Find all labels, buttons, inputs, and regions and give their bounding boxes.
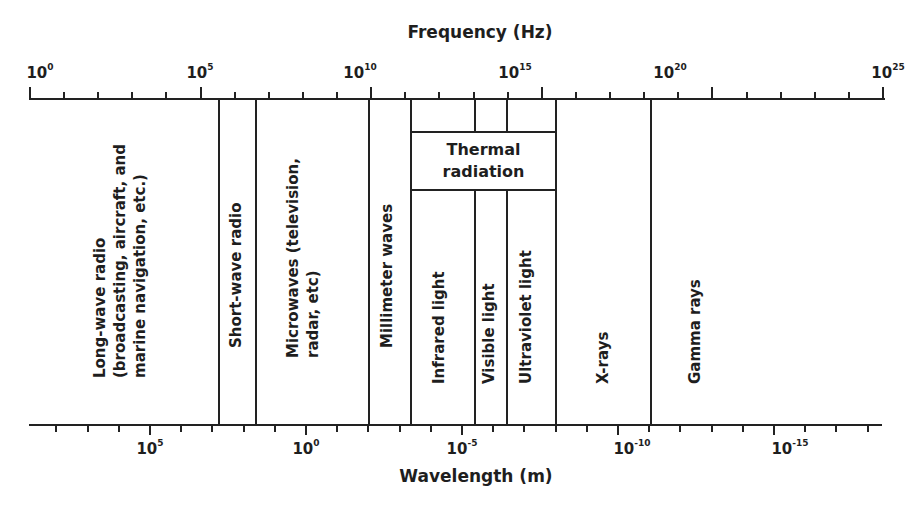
band-divider (218, 98, 220, 426)
minor-tick (438, 92, 440, 99)
minor-tick (648, 425, 650, 432)
band-infrared-light: Infrared light (429, 271, 449, 384)
band-x-rays: X-rays (593, 332, 613, 384)
minor-tick (746, 92, 748, 99)
minor-tick (586, 425, 588, 432)
freq-tick-label: 1010 (343, 64, 376, 82)
major-tick (200, 87, 202, 99)
minor-tick (555, 425, 557, 432)
minor-tick (711, 425, 713, 432)
wavelength-axis-line (29, 424, 882, 426)
minor-tick (180, 425, 182, 432)
minor-tick (677, 92, 679, 99)
band-millimeter-waves: Millimeter waves (377, 204, 397, 348)
minor-tick (399, 425, 401, 432)
minor-tick (814, 92, 816, 99)
major-tick (370, 87, 372, 99)
wavelength-tick-label: 10-10 (613, 440, 650, 458)
band-divider (650, 98, 652, 426)
minor-tick (679, 425, 681, 432)
minor-tick (367, 425, 369, 432)
freq-tick-label: 100 (26, 64, 53, 82)
wavelength-axis-title: Wavelength (m) (399, 466, 552, 486)
minor-tick (87, 425, 89, 432)
minor-tick (430, 425, 432, 432)
freq-tick-label: 1025 (871, 64, 904, 82)
band-microwaves: Microwaves (television, radar, etc) (283, 158, 323, 358)
major-tick (773, 425, 775, 435)
wavelength-tick-label: 105 (136, 440, 163, 458)
minor-tick (867, 425, 869, 432)
minor-tick (274, 425, 276, 432)
band-divider (368, 98, 370, 426)
minor-tick (63, 92, 65, 99)
thermal-radiation-group: Thermalradiation (410, 131, 557, 191)
minor-tick (131, 92, 133, 99)
minor-tick (211, 425, 213, 432)
minor-tick (336, 425, 338, 432)
minor-tick (523, 425, 525, 432)
major-tick (461, 425, 463, 435)
frequency-axis-title: Frequency (Hz) (407, 22, 552, 42)
major-tick (617, 425, 619, 435)
minor-tick (780, 92, 782, 99)
thermal-label-line1: Thermal (447, 140, 521, 159)
band-long-wave-radio: Long-wave radio (broadcasting, aircraft,… (90, 144, 150, 378)
minor-tick (835, 425, 837, 432)
minor-tick (268, 92, 270, 99)
minor-tick (643, 92, 645, 99)
minor-tick (492, 425, 494, 432)
minor-tick (848, 92, 850, 99)
minor-tick (302, 92, 304, 99)
major-tick (305, 425, 307, 435)
band-divider (255, 98, 257, 426)
major-tick (149, 425, 151, 435)
minor-tick (404, 92, 406, 99)
freq-tick-label: 1015 (498, 64, 531, 82)
wavelength-tick-label: 100 (292, 440, 319, 458)
minor-tick (234, 92, 236, 99)
major-tick (711, 87, 713, 99)
minor-tick (609, 92, 611, 99)
thermal-label-line2: radiation (443, 162, 525, 181)
minor-tick (575, 92, 577, 99)
wavelength-tick-label: 10-15 (771, 440, 808, 458)
minor-tick (804, 425, 806, 432)
band-gamma-rays: Gamma rays (685, 279, 705, 384)
major-tick (541, 87, 543, 99)
freq-tick-label: 1020 (653, 64, 686, 82)
minor-tick (165, 92, 167, 99)
major-tick (29, 87, 31, 99)
freq-tick-label: 105 (186, 64, 213, 82)
minor-tick (97, 92, 99, 99)
minor-tick (118, 425, 120, 432)
wavelength-tick-label: 10-5 (447, 440, 478, 458)
band-ultraviolet-light: Ultraviolet light (516, 250, 536, 384)
minor-tick (55, 425, 57, 432)
minor-tick (336, 92, 338, 99)
frequency-axis-line (29, 98, 885, 100)
major-tick (882, 87, 884, 99)
band-short-wave-radio: Short-wave radio (226, 203, 246, 348)
minor-tick (243, 425, 245, 432)
band-visible-light: Visible light (479, 283, 499, 384)
minor-tick (742, 425, 744, 432)
